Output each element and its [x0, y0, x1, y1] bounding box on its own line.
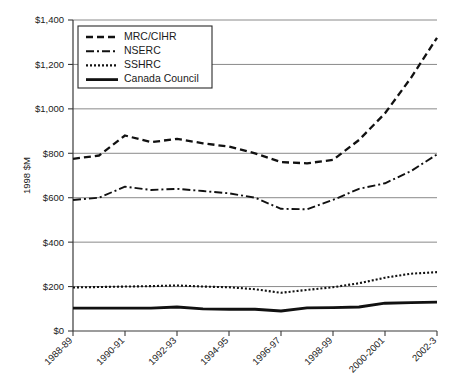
x-tick-label: 2002-3 — [410, 335, 439, 364]
y-tick-label: $400 — [43, 237, 64, 248]
y-tick-label: $200 — [43, 281, 64, 292]
y-tick-label: $800 — [43, 148, 64, 159]
chart-container: $0$200$400$600$800$1,000$1,200$1,400 198… — [0, 0, 454, 392]
legend-item-canada-council-label: Canada Council — [124, 72, 199, 84]
y-tick-label: $0 — [53, 325, 64, 336]
legend-item-sshrc-label: SSHRC — [124, 58, 161, 70]
chart-legend[interactable]: MRC/CIHRNSERCSSHRCCanada Council — [78, 26, 212, 88]
x-tick-label: 1996-97 — [250, 335, 282, 367]
series-line-nserc — [73, 154, 437, 209]
x-tick-label: 1998-99 — [302, 335, 334, 367]
y-axis-title: 1998 $M — [21, 157, 32, 194]
y-tick-label: $600 — [43, 192, 64, 203]
x-tick-label: 1992-93 — [146, 335, 178, 367]
series-line-sshrc — [73, 272, 437, 293]
x-tick-label: 1990-91 — [94, 335, 126, 367]
legend-item-mrc-cihr-label: MRC/CIHR — [124, 30, 177, 42]
y-axis-title-text: 1998 $M — [21, 157, 32, 194]
x-tick-label: 2000-2001 — [347, 335, 387, 375]
x-axis-tick-labels: 1988-891990-911992-931994-951996-971998-… — [42, 335, 438, 375]
line-chart: $0$200$400$600$800$1,000$1,200$1,400 198… — [0, 0, 454, 392]
y-axis-tick-labels: $0$200$400$600$800$1,000$1,200$1,400 — [35, 14, 64, 336]
legend-item-nserc-label: NSERC — [124, 44, 161, 56]
y-tick-label: $1,000 — [35, 103, 64, 114]
x-tick-label: 1988-89 — [42, 335, 74, 367]
x-tick-label: 1994-95 — [198, 335, 230, 367]
y-tick-label: $1,200 — [35, 59, 64, 70]
y-tick-label: $1,400 — [35, 14, 64, 25]
series-line-canada-council — [73, 302, 437, 311]
